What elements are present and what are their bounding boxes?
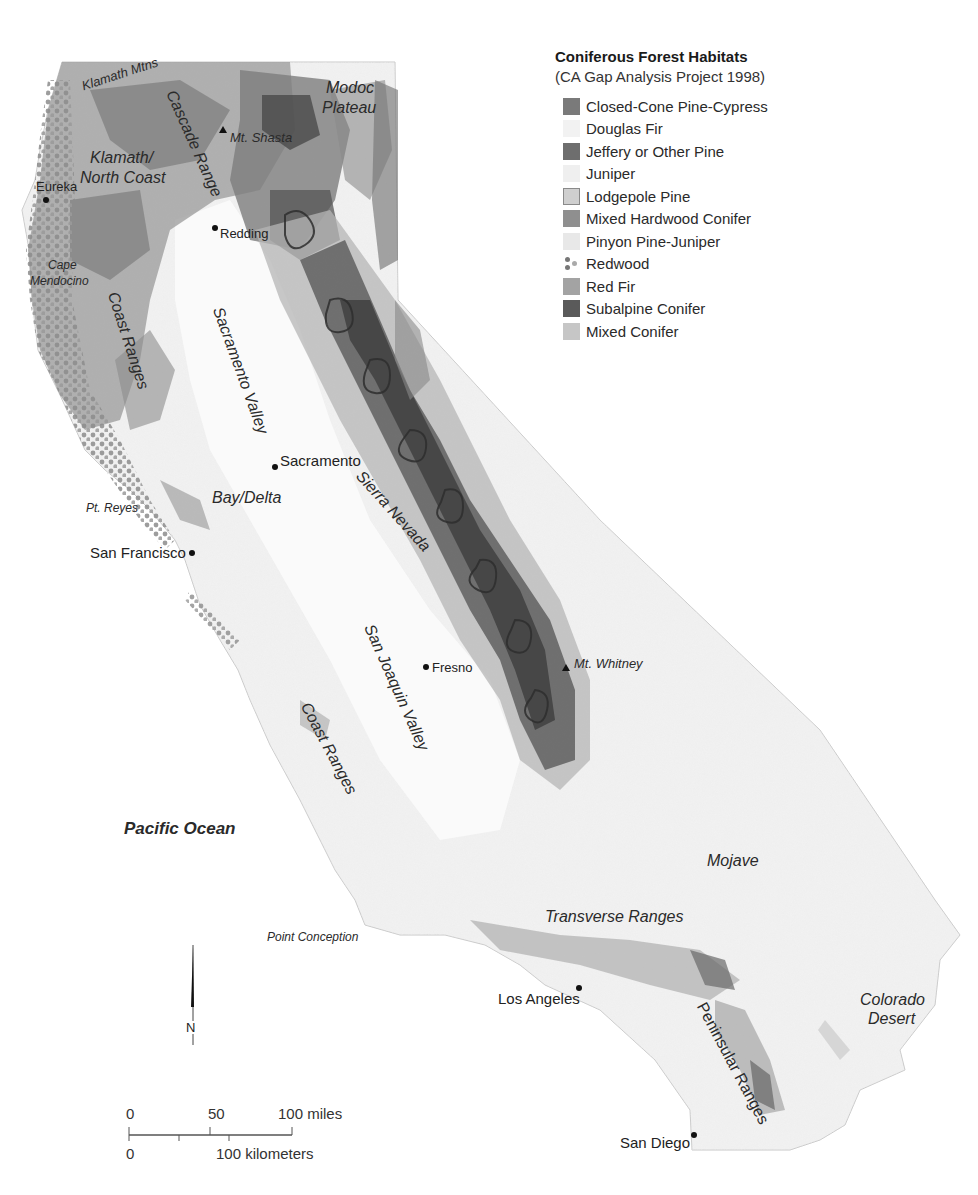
legend-item-douglas-fir: Douglas Fir (563, 118, 768, 141)
city-label-redding: Redding (220, 227, 268, 240)
peak-marker-mt-whitney-icon (562, 664, 570, 671)
legend-subtitle: (CA Gap Analysis Project 1998) (555, 68, 768, 85)
city-label-eureka: Eureka (36, 180, 77, 193)
region-label-colorado: Colorado (860, 992, 925, 1008)
legend-item-label: Redwood (586, 255, 649, 272)
city-marker-san-diego (691, 1132, 697, 1138)
peak-label-mt-shasta: Mt. Shasta (230, 131, 292, 144)
legend-item-label: Red Fir (586, 278, 635, 295)
legend-title: Coniferous Forest Habitats (555, 48, 768, 65)
region-label-cape: Cape (48, 259, 77, 271)
region-label-plateau: Plateau (322, 100, 376, 116)
legend-item-label: Pinyon Pine-Juniper (586, 233, 720, 250)
legend-item-label: Subalpine Conifer (586, 300, 705, 317)
north-arrow: N (183, 945, 203, 1045)
swatch-mixed-conifer-icon (563, 323, 580, 340)
city-marker-fresno (423, 664, 429, 670)
region-label-desert: Desert (868, 1011, 915, 1027)
swatch-douglas-fir-icon (563, 120, 580, 137)
swatch-jeffery-pine-icon (563, 143, 580, 160)
north-arrow-label: N (186, 1021, 195, 1034)
city-marker-san-francisco (189, 550, 195, 556)
region-label-point-conception: Point Conception (267, 931, 358, 943)
legend-item-mixed-hardwood-conifer: Mixed Hardwood Conifer (563, 208, 768, 231)
city-label-san-diego: San Diego (620, 1135, 690, 1150)
city-label-san-francisco: San Francisco (90, 545, 186, 560)
city-marker-eureka (43, 197, 49, 203)
legend-item-label: Lodgepole Pine (586, 188, 690, 205)
legend-item-label: Mixed Hardwood Conifer (586, 210, 751, 227)
region-label-modoc: Modoc (326, 80, 374, 96)
scale-km-0: 0 (126, 1145, 134, 1162)
swatch-red-fir-icon (563, 278, 580, 295)
city-label-sacramento: Sacramento (280, 453, 361, 468)
legend-item-mixed-conifer: Mixed Conifer (563, 320, 768, 343)
scale-km-100: 100 kilometers (216, 1145, 314, 1162)
legend-item-label: Juniper (586, 165, 635, 182)
legend-item-pinyon-pine-juniper: Pinyon Pine-Juniper (563, 230, 768, 253)
scale-bar-line (120, 1125, 360, 1145)
legend: Coniferous Forest Habitats (CA Gap Analy… (555, 48, 768, 343)
swatch-mixed-hardwood-conifer-icon (563, 210, 580, 227)
region-label-north-coast: North Coast (80, 170, 165, 186)
region-label-mojave: Mojave (707, 853, 759, 869)
peak-marker-mt-shasta-icon (219, 126, 227, 133)
scale-miles-50: 50 (208, 1105, 225, 1122)
swatch-closed-cone-pine-cypress-icon (563, 98, 580, 115)
legend-items: Closed-Cone Pine-Cypress Douglas Fir Jef… (555, 95, 768, 343)
region-label-pt-reyes: Pt. Reyes (86, 502, 138, 514)
city-marker-sacramento (272, 464, 278, 470)
legend-item-label: Douglas Fir (586, 120, 663, 137)
region-label-pacific-ocean: Pacific Ocean (124, 820, 236, 837)
legend-item-label: Mixed Conifer (586, 323, 679, 340)
swatch-pinyon-pine-juniper-icon (563, 233, 580, 250)
swatch-juniper-icon (563, 165, 580, 182)
city-label-fresno: Fresno (432, 661, 472, 674)
legend-item-closed-cone-pine-cypress: Closed-Cone Pine-Cypress (563, 95, 768, 118)
scale-miles-100: 100 miles (278, 1105, 342, 1122)
city-marker-redding (212, 225, 218, 231)
legend-item-lodgepole-pine: Lodgepole Pine (563, 185, 768, 208)
peak-label-mt-whitney: Mt. Whitney (574, 657, 643, 670)
legend-item-jeffery-pine: Jeffery or Other Pine (563, 140, 768, 163)
swatch-redwood-dots-icon (563, 255, 580, 272)
scale-miles-0: 0 (126, 1105, 134, 1122)
city-label-los-angeles: Los Angeles (498, 991, 580, 1006)
legend-item-juniper: Juniper (563, 163, 768, 186)
region-label-mendocino: Mendocino (30, 275, 89, 287)
swatch-subalpine-conifer-icon (563, 300, 580, 317)
region-label-bay-delta: Bay/Delta (212, 490, 281, 506)
legend-item-red-fir: Red Fir (563, 275, 768, 298)
legend-item-subalpine-conifer: Subalpine Conifer (563, 298, 768, 321)
region-label-klamath: Klamath/ (90, 150, 153, 166)
legend-item-label: Closed-Cone Pine-Cypress (586, 98, 768, 115)
swatch-lodgepole-pine-icon (563, 188, 580, 205)
region-label-transverse-ranges: Transverse Ranges (545, 909, 683, 925)
legend-item-label: Jeffery or Other Pine (586, 143, 724, 160)
scale-bar: 0 50 100 miles 0 100 kilometers (120, 1105, 360, 1175)
legend-item-redwood: Redwood (563, 253, 768, 276)
